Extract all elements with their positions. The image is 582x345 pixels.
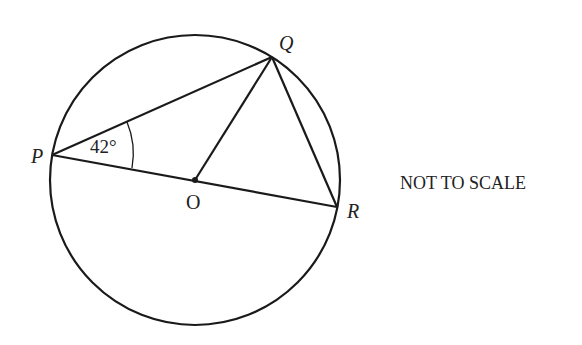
point-label-q: Q bbox=[279, 33, 293, 53]
angle-arc bbox=[127, 122, 133, 168]
angle-label: 42° bbox=[90, 137, 117, 156]
chord-pq bbox=[52, 57, 272, 155]
point-label-o: O bbox=[186, 192, 200, 212]
point-label-r: R bbox=[347, 201, 359, 221]
chord-qr bbox=[272, 57, 337, 207]
radius-oq bbox=[195, 57, 272, 180]
not-to-scale-note: NOT TO SCALE bbox=[400, 174, 526, 192]
point-label-p: P bbox=[31, 146, 43, 166]
center-point bbox=[192, 177, 198, 183]
